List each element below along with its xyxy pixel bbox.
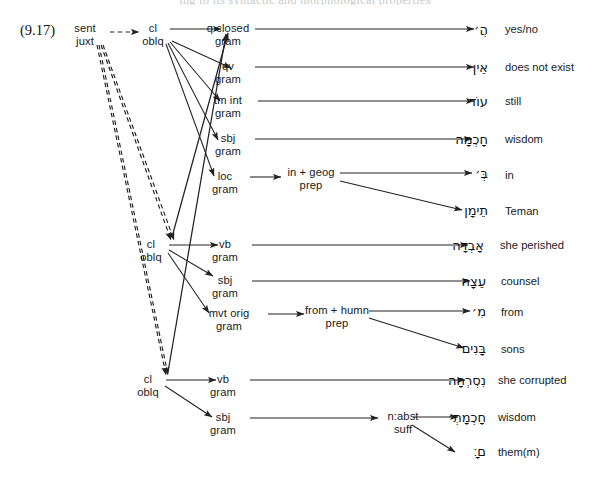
node-line1: mvt orig	[190, 307, 268, 320]
node-line1: cl	[133, 22, 173, 35]
node-line1: sbj	[196, 274, 254, 287]
gloss-from: from	[501, 306, 523, 318]
node-line1: loc	[196, 170, 254, 183]
node-sbj-gram-1: sbj gram	[199, 132, 257, 157]
node-line2: oblq	[133, 35, 173, 48]
node-line2: oblq	[131, 251, 171, 264]
node-line2: gram	[199, 73, 257, 86]
node-clause-1: cl oblq	[133, 22, 173, 47]
node-mvt-orig-gram: mvt orig gram	[190, 307, 268, 332]
node-line2: gram	[194, 386, 252, 399]
node-line1: from + humn	[303, 304, 371, 317]
node-line1: sbj	[194, 411, 252, 424]
node-line1: vb	[194, 373, 252, 386]
hebrew-teman: תֵימָן	[424, 203, 488, 218]
node-line2: juxt	[60, 35, 110, 48]
hebrew-wisdom-1: חָכְמָה	[424, 132, 488, 147]
example-number: (9.17)	[20, 22, 55, 39]
dashed-edges	[97, 32, 174, 375]
node-line2: gram	[190, 320, 268, 333]
hebrew-wisdom-2: חָכְמָתְ׳	[414, 410, 486, 425]
node-in-geog-prep: in + geog prep	[282, 166, 340, 191]
node-sbj-gram-2: sbj gram	[196, 274, 254, 299]
node-line1: q closed	[199, 22, 257, 35]
node-sentence-juxt: sent juxt	[60, 22, 110, 47]
node-clause-2: cl oblq	[131, 238, 171, 263]
hebrew-sons: בָּנִים	[424, 341, 486, 356]
hebrew-in: בְּ׳	[432, 166, 488, 181]
gloss-does-not-exist: does not exist	[505, 61, 574, 73]
node-line1: vb	[196, 238, 254, 251]
gloss-them-m: them(m)	[498, 446, 540, 458]
node-line2: gram	[196, 183, 254, 196]
hebrew-she-perished: אָבְדָה	[424, 238, 484, 253]
gloss-counsel: counsel	[501, 275, 540, 287]
cropped-text-above: ing to its syntactic and morphological p…	[0, 0, 610, 5]
node-line2: gram	[199, 145, 257, 158]
node-line1: in + geog	[282, 166, 340, 179]
node-vb-gram-2: vb gram	[196, 238, 254, 263]
node-q-closed-gram: q closed gram	[199, 22, 257, 47]
gloss-sons: sons	[501, 343, 525, 355]
node-tm-int-gram: tm int gram	[199, 94, 257, 119]
node-line2: prep	[282, 179, 340, 192]
node-line1: sbj	[199, 132, 257, 145]
node-line2: gram	[196, 251, 254, 264]
hebrew-counsel: עֵצָה	[426, 274, 486, 289]
hebrew-them-m: ם׃ָ	[428, 444, 486, 459]
node-line2: gram	[196, 287, 254, 300]
gloss-wisdom-2: wisdom	[498, 411, 536, 423]
clause2-leaf-edges	[252, 245, 470, 348]
node-clause-3: cl oblq	[128, 373, 168, 398]
node-line2: prep	[303, 317, 371, 330]
gloss-still: still	[505, 95, 521, 107]
gloss-in: in	[505, 169, 514, 181]
node-line2: oblq	[128, 386, 168, 399]
gloss-wisdom-1: wisdom	[505, 133, 543, 145]
hebrew-yes-no: הֲ׳	[432, 22, 488, 37]
node-line1: sent	[60, 22, 110, 35]
gloss-she-corrupted: she corrupted	[498, 374, 566, 386]
hebrew-still: עוֹד	[432, 94, 488, 109]
node-sbj-gram-3: sbj gram	[194, 411, 252, 436]
node-loc-gram: loc gram	[196, 170, 254, 195]
gloss-she-perished: she perished	[500, 239, 564, 251]
node-qv-gram: qv gram	[199, 60, 257, 85]
node-line1: tm int	[199, 94, 257, 107]
node-line1: cl	[128, 373, 168, 386]
node-line2: gram	[199, 35, 257, 48]
node-from-humn-prep: from + humn prep	[303, 304, 371, 329]
gloss-yes-no: yes/no	[505, 23, 538, 35]
node-vb-gram-3: vb gram	[194, 373, 252, 398]
node-line1: qv	[199, 60, 257, 73]
node-line1: cl	[131, 238, 171, 251]
gloss-teman: Teman	[505, 205, 539, 217]
node-line2: gram	[199, 107, 257, 120]
syntax-diagram: ing to its syntactic and morphological p…	[0, 0, 610, 481]
hebrew-from: מִ׳	[430, 304, 486, 319]
node-line2: gram	[194, 424, 252, 437]
hebrew-she-corrupted: נִסְרְחָה	[418, 373, 486, 388]
hebrew-does-not-exist: אֵין	[432, 60, 488, 75]
